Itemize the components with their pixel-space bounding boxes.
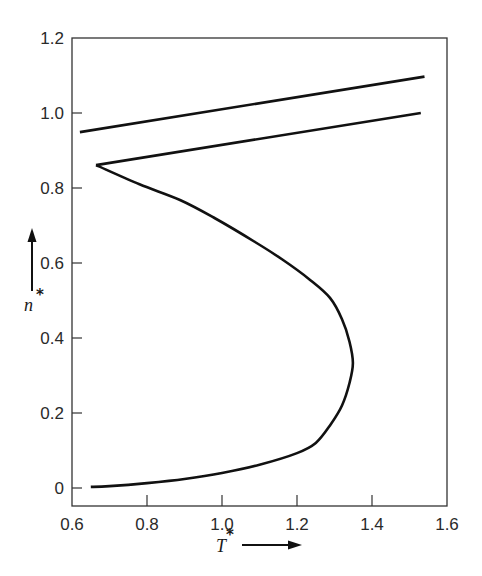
x-tick-label: 0.8 [135,515,159,534]
plot-frame [72,38,447,506]
y-tick-label: 0.4 [40,329,64,348]
y-axis-label-text: n [24,295,33,315]
x-axis-arrowhead-icon [288,541,302,550]
y-axis-ticks: 00.20.40.60.81.01.2 [40,29,82,498]
x-tick-label: 0.6 [60,515,84,534]
y-tick-label: 0.6 [40,254,64,273]
y-tick-label: 0 [55,479,64,498]
y-axis-arrowhead-icon [28,228,37,242]
y-tick-label: 1.0 [40,104,64,123]
plot-border [72,38,447,506]
x-tick-label: 1.2 [285,515,309,534]
x-axis-label-star: * [226,526,234,544]
y-tick-label: 1.2 [40,29,64,48]
y-tick-label: 0.8 [40,179,64,198]
y-tick-label: 0.2 [40,404,64,423]
x-axis-ticks: 0.60.81.01.21.41.6 [60,495,459,534]
x-tick-label: 1.4 [360,515,384,534]
upper-straight-line [80,77,425,133]
phase-diagram-chart: 00.20.40.60.81.01.2 0.60.81.01.21.41.6 n… [0,0,482,576]
x-tick-label: 1.6 [435,515,459,534]
y-axis-label-star: * [36,286,44,304]
data-series [80,77,425,487]
coexistence-curve [91,165,353,487]
